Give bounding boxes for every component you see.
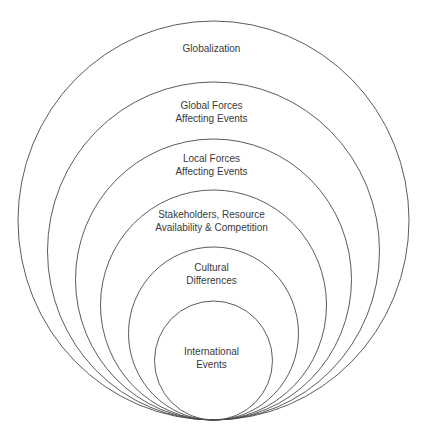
label-line: Cultural bbox=[0, 261, 423, 274]
label-line: Global Forces bbox=[0, 99, 423, 112]
label-global-forces: Global Forces Affecting Events bbox=[0, 99, 423, 125]
label-line: Differences bbox=[0, 274, 423, 287]
label-line: Affecting Events bbox=[0, 165, 423, 178]
label-line: International bbox=[0, 345, 423, 358]
label-local-forces: Local Forces Affecting Events bbox=[0, 152, 423, 178]
label-line: Globalization bbox=[0, 42, 423, 55]
label-line: Events bbox=[0, 358, 423, 371]
label-line: Local Forces bbox=[0, 152, 423, 165]
label-stakeholders: Stakeholders, Resource Availability & Co… bbox=[0, 208, 423, 234]
label-international-events: International Events bbox=[0, 345, 423, 371]
label-globalization: Globalization bbox=[0, 42, 423, 55]
label-line: Stakeholders, Resource bbox=[0, 208, 423, 221]
label-cultural-differences: Cultural Differences bbox=[0, 261, 423, 287]
label-line: Affecting Events bbox=[0, 112, 423, 125]
label-line: Availability & Competition bbox=[0, 221, 423, 234]
